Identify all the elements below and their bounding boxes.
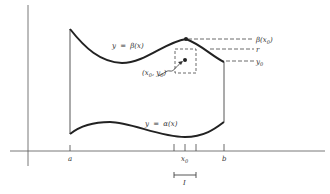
label-x0: x0 — [181, 155, 189, 164]
label-interval-i: I — [182, 179, 186, 187]
point-x0-y0 — [183, 58, 187, 62]
curve-beta — [70, 29, 224, 63]
label-a: a — [68, 155, 72, 163]
label-lower-curve: y = α(x) — [144, 120, 178, 128]
label-r: r — [256, 46, 260, 54]
region-diagram: y = β(x) y = α(x) (x0, y0) β(x0) r y0 a … — [0, 0, 330, 194]
label-y0: y0 — [255, 58, 264, 67]
label-point-x0-y0: (x0, y0) — [142, 69, 166, 78]
point-beta-x0 — [184, 37, 188, 41]
label-upper-curve: y = β(x) — [111, 42, 144, 50]
label-beta-x0: β(x0) — [255, 36, 273, 45]
label-b: b — [222, 155, 227, 163]
